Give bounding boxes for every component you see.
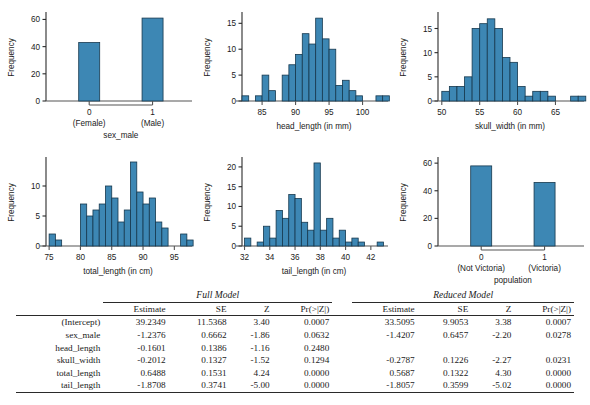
cell-reduced-pvalue: 0.0000 bbox=[514, 367, 574, 380]
x-tick-label: 40 bbox=[341, 253, 351, 262]
bar-1 bbox=[534, 182, 555, 246]
hist-bin bbox=[333, 238, 339, 246]
hist-bin bbox=[289, 65, 296, 101]
y-tick-label: 5 bbox=[231, 222, 236, 231]
x-tick-sublabel: (Female) bbox=[73, 119, 106, 128]
y-tick-label: 5 bbox=[427, 73, 432, 82]
hist-bin bbox=[457, 87, 465, 102]
cell-full-se: 0.1386 bbox=[169, 341, 230, 354]
model-coefficients-table-container: Full Model Reduced Model Estimate SE Z P… bbox=[0, 288, 590, 405]
hist-bin bbox=[156, 222, 162, 246]
hist-bin bbox=[548, 96, 556, 101]
hist-bin bbox=[112, 198, 118, 246]
x-axis-label: population bbox=[494, 276, 532, 285]
cell-reduced-estimate: -1.4207 bbox=[352, 329, 417, 342]
table-body: (Intercept)39.234911.53683.400.000733.50… bbox=[16, 316, 574, 401]
y-tick-label: 20 bbox=[31, 70, 41, 79]
hist-bin bbox=[87, 216, 93, 246]
y-axis-label: Frequency bbox=[7, 37, 16, 77]
cell-reduced-z: -2.20 bbox=[471, 329, 514, 342]
table-row: total_length0.64880.15314.240.00000.5687… bbox=[16, 367, 574, 380]
hist-bin bbox=[442, 91, 450, 101]
column-gap bbox=[332, 288, 352, 302]
table-row-label: sex_male bbox=[16, 329, 103, 342]
x-tick-label: 42 bbox=[366, 253, 376, 262]
hist-bin bbox=[245, 238, 251, 246]
hist-bin bbox=[276, 210, 282, 246]
hist-bin bbox=[118, 222, 124, 246]
hist-bin bbox=[465, 77, 473, 101]
cell-full-z: -5.00 bbox=[230, 379, 273, 392]
table-row: (Intercept)39.234911.53683.400.000733.50… bbox=[16, 316, 574, 329]
hist-bin bbox=[181, 234, 187, 246]
hist-bin bbox=[349, 91, 356, 101]
hist-bin bbox=[510, 62, 518, 101]
cell-full-estimate: 0.6488 bbox=[103, 367, 168, 380]
colhead-reduced-pvalue: Pr(>|Z|) bbox=[514, 302, 574, 316]
hist-bin bbox=[346, 242, 352, 246]
x-axis-label: tail_length (in cm) bbox=[282, 267, 347, 276]
table-row-label: skull_width bbox=[16, 354, 103, 367]
table-group-header-row: Full Model Reduced Model bbox=[16, 288, 574, 302]
hist-bin bbox=[352, 238, 358, 246]
y-tick-label: 20 bbox=[227, 163, 237, 172]
column-gap bbox=[332, 341, 352, 354]
y-tick-label: 10 bbox=[31, 182, 41, 191]
table-row-label: total_length bbox=[16, 367, 103, 380]
x-tick-label: 1 bbox=[150, 108, 155, 117]
table-row: tail_length-1.87080.3741-5.000.0000-1.80… bbox=[16, 379, 574, 392]
table-row: sex_male-1.23760.6662-1.860.0632-1.42070… bbox=[16, 329, 574, 342]
hist-bin bbox=[356, 96, 363, 101]
hist-bin bbox=[480, 24, 488, 101]
hist-bin bbox=[282, 75, 289, 101]
cell-reduced-estimate bbox=[352, 341, 417, 354]
hist-bin bbox=[358, 242, 364, 246]
table-header: Full Model Reduced Model Estimate SE Z P… bbox=[16, 288, 574, 316]
cell-reduced-se: 0.1226 bbox=[418, 354, 472, 367]
hist-bin bbox=[495, 29, 503, 102]
x-tick-sublabel: (Victoria) bbox=[528, 264, 561, 273]
bar-0 bbox=[79, 43, 100, 101]
cell-full-pvalue: 0.1294 bbox=[273, 354, 333, 367]
panel-skull-width: 051015Frequency50556065skull_width (in m… bbox=[392, 0, 588, 145]
y-axis-label: Frequency bbox=[203, 37, 212, 77]
panel-population: 0204060Frequency0(Not Victoria)1(Victori… bbox=[392, 145, 588, 290]
x-tick-sublabel: (Not Victoria) bbox=[457, 264, 505, 273]
hist-bin bbox=[301, 222, 307, 246]
cell-full-pvalue: 0.0632 bbox=[273, 329, 333, 342]
bar-1 bbox=[142, 18, 163, 101]
hist-bin bbox=[296, 54, 303, 101]
y-tick-label: 15 bbox=[227, 183, 237, 192]
x-tick-sublabel: (Male) bbox=[141, 119, 164, 128]
hist-bin bbox=[289, 195, 295, 246]
hist-bin bbox=[339, 230, 345, 246]
cell-full-se: 11.5368 bbox=[169, 316, 230, 329]
x-tick-label: 34 bbox=[265, 253, 275, 262]
column-gap bbox=[332, 302, 352, 316]
x-axis-label: total_length (in cm) bbox=[83, 267, 153, 276]
cell-full-estimate: -0.2012 bbox=[103, 354, 168, 367]
x-tick-label: 55 bbox=[475, 108, 485, 117]
y-tick-label: 15 bbox=[423, 25, 433, 34]
hist-bin bbox=[502, 58, 510, 102]
y-axis-label: Frequency bbox=[399, 37, 408, 77]
cell-reduced-estimate: 0.5687 bbox=[352, 367, 417, 380]
hist-bin bbox=[376, 96, 383, 101]
y-tick-label: 0 bbox=[231, 242, 236, 251]
x-axis-label: sex_male bbox=[103, 131, 138, 140]
y-tick-label: 0 bbox=[35, 97, 40, 106]
hist-bin bbox=[105, 186, 111, 246]
hist-bin bbox=[80, 204, 86, 246]
x-axis-label: skull_width (in mm) bbox=[475, 122, 545, 131]
y-axis-label: Frequency bbox=[203, 182, 212, 222]
y-tick-label: 40 bbox=[31, 43, 41, 52]
x-tick-label: 65 bbox=[551, 108, 561, 117]
colhead-reduced-z: Z bbox=[471, 302, 514, 316]
hist-bin bbox=[302, 34, 309, 101]
cell-full-pvalue: 0.0000 bbox=[273, 379, 333, 392]
cell-reduced-z bbox=[471, 341, 514, 354]
hist-bin bbox=[187, 240, 193, 246]
y-tick-label: 5 bbox=[35, 212, 40, 221]
table-row-label: tail_length bbox=[16, 379, 103, 392]
hist-bin bbox=[336, 85, 343, 101]
